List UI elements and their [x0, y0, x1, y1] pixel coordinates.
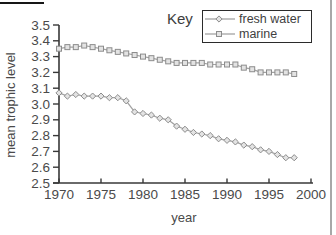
- legend-title: Key: [167, 10, 193, 27]
- svg-text:2.7: 2.7: [31, 144, 50, 159]
- svg-text:1995: 1995: [254, 187, 284, 202]
- fresh-water-marker-icon: [203, 13, 239, 25]
- svg-text:2.8: 2.8: [31, 128, 50, 143]
- legend-label-marine: marine: [239, 27, 277, 41]
- svg-text:1985: 1985: [170, 187, 200, 202]
- svg-text:3.3: 3.3: [31, 49, 50, 64]
- y-axis-label: mean trophic level: [3, 52, 18, 158]
- series-marine: [57, 43, 297, 76]
- svg-text:1990: 1990: [212, 187, 242, 202]
- svg-text:3.0: 3.0: [31, 97, 50, 112]
- legend-item-fresh-water: fresh water: [203, 12, 311, 26]
- marine-marker-icon: [203, 28, 239, 40]
- page-top-rule: [0, 2, 44, 4]
- svg-text:1980: 1980: [128, 187, 158, 202]
- page-edge-line: [330, 0, 332, 235]
- svg-text:1975: 1975: [86, 187, 116, 202]
- legend-label-fresh-water: fresh water: [239, 12, 301, 26]
- svg-text:3.5: 3.5: [31, 18, 50, 33]
- svg-text:3.1: 3.1: [31, 81, 50, 96]
- svg-text:2.9: 2.9: [31, 112, 50, 127]
- svg-text:3.4: 3.4: [31, 33, 50, 48]
- series-fresh-water: [56, 90, 297, 161]
- x-axis-label: year: [171, 210, 196, 225]
- svg-text:2.6: 2.6: [31, 160, 50, 175]
- legend-box: fresh water marine: [202, 10, 312, 43]
- svg-text:2000: 2000: [296, 187, 326, 202]
- chart-figure: 3.53.43.33.23.13.02.92.82.72.62.51970197…: [0, 0, 336, 235]
- legend-item-marine: marine: [203, 27, 311, 41]
- svg-text:3.2: 3.2: [31, 65, 50, 80]
- svg-text:1970: 1970: [44, 187, 74, 202]
